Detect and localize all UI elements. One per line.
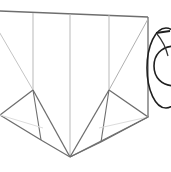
left-wing-outline: [0, 90, 41, 140]
circle-motif-outer-loop: [147, 28, 171, 108]
drawing-canvas: [0, 0, 171, 172]
top-edge-line: [0, 11, 148, 17]
wireframe-svg: [0, 0, 171, 172]
circle-motif-inner-loop: [154, 46, 171, 86]
diagonal-upper-right-line: [109, 19, 148, 90]
right-wing-faint-fold-line: [99, 117, 148, 128]
left-wing-faint-fold-line: [0, 115, 43, 128]
diagonal-upper-left-line: [0, 23, 33, 90]
